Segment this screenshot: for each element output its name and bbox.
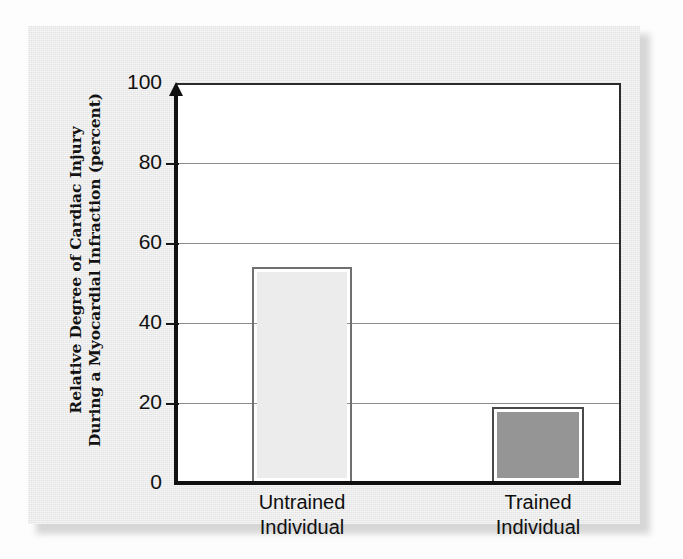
y-tick-label-60: 60 [108, 230, 162, 254]
y-axis-tick-labels: 0 20 40 60 80 100 [104, 26, 162, 524]
y-tick-label-100: 100 [108, 70, 162, 94]
gridline-60 [178, 243, 619, 244]
gridline-40 [178, 323, 619, 324]
bar-untrained-individual[interactable] [252, 267, 352, 483]
figure-card: Relative Degree of Cardiac Injury During… [28, 26, 640, 524]
y-tick-label-80: 80 [108, 150, 162, 174]
x-axis-line [174, 481, 621, 485]
y-tick-label-40: 40 [108, 310, 162, 334]
x-label-trained-line-2: Individual [458, 515, 618, 540]
y-axis-line [174, 92, 178, 484]
y-axis-title-line-1: Relative Degree of Cardiac Injury [67, 126, 86, 413]
gridline-20 [178, 403, 619, 404]
y-axis-arrow-icon [169, 82, 183, 96]
bar-untrained-fill [257, 272, 347, 478]
bar-trained-fill [497, 412, 579, 478]
x-label-untrained-line-2: Individual [222, 515, 382, 540]
y-tick-label-0: 0 [108, 470, 162, 494]
y-tick-label-20: 20 [108, 390, 162, 414]
x-label-untrained-line-1: Untrained [222, 490, 382, 515]
bar-trained-individual[interactable] [492, 407, 584, 483]
x-label-trained: Trained Individual [458, 490, 618, 540]
x-label-untrained: Untrained Individual [222, 490, 382, 540]
x-label-trained-line-1: Trained [458, 490, 618, 515]
y-axis-title-line-2: During a Myocardial Infraction (percent) [86, 93, 105, 447]
gridline-80 [178, 163, 619, 164]
